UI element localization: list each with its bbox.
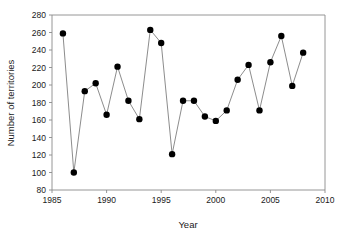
data-point	[125, 98, 131, 104]
data-point	[114, 63, 120, 69]
data-point	[213, 118, 219, 124]
data-point	[245, 62, 251, 68]
data-point	[158, 40, 164, 46]
y-tick-label: 200	[32, 80, 46, 90]
y-tick-label: 80	[37, 185, 47, 195]
y-tick-label: 120	[32, 150, 46, 160]
y-tick-label: 180	[32, 98, 46, 108]
data-point	[256, 107, 262, 113]
data-point	[180, 98, 186, 104]
x-tick-label: 2005	[261, 195, 280, 205]
x-tick-label: 2010	[316, 195, 335, 205]
data-point	[136, 116, 142, 122]
x-tick-label: 1985	[43, 195, 62, 205]
y-tick-label: 260	[32, 28, 46, 38]
data-point	[202, 113, 208, 119]
data-point	[71, 169, 77, 175]
y-tick-label: 280	[32, 10, 46, 20]
series-markers	[60, 27, 307, 176]
x-tick-label: 1995	[152, 195, 171, 205]
y-axis-title: Number of territories	[5, 59, 16, 146]
y-tick-label: 140	[32, 133, 46, 143]
data-point	[224, 107, 230, 113]
data-point	[300, 49, 306, 55]
data-point	[82, 88, 88, 94]
chart-container: 80100120140160180200220240260280 1985199…	[0, 0, 337, 235]
data-point	[234, 77, 240, 83]
line-chart: 80100120140160180200220240260280 1985199…	[0, 0, 337, 235]
x-axis-title: Year	[178, 219, 197, 230]
data-point	[278, 33, 284, 39]
y-tick-label: 240	[32, 45, 46, 55]
data-point	[289, 83, 295, 89]
x-axis-tick-labels: 198519901995200020052010	[43, 195, 335, 205]
y-tick-label: 220	[32, 63, 46, 73]
data-point	[267, 59, 273, 65]
data-point	[169, 151, 175, 157]
x-tick-label: 2000	[206, 195, 225, 205]
data-point	[60, 30, 66, 36]
y-axis-tick-labels: 80100120140160180200220240260280	[32, 10, 46, 195]
data-point	[191, 98, 197, 104]
data-point	[92, 80, 98, 86]
data-point	[103, 112, 109, 118]
y-tick-label: 100	[32, 168, 46, 178]
y-tick-label: 160	[32, 115, 46, 125]
data-point	[147, 27, 153, 33]
x-tick-label: 1990	[97, 195, 116, 205]
